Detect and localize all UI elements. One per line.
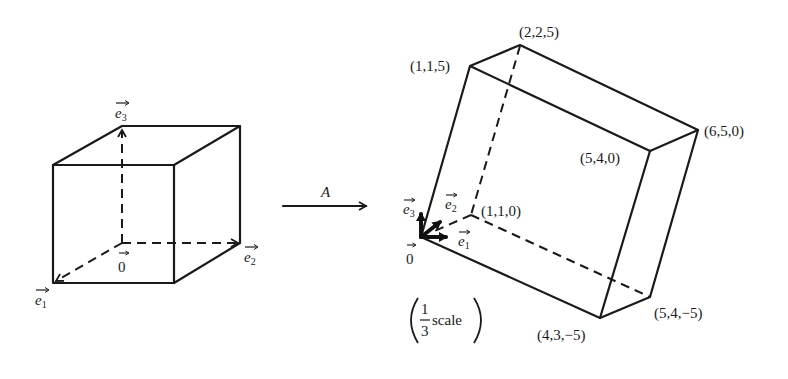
- left-e1-label: e1: [35, 288, 49, 311]
- prism-top-faces: [421, 45, 698, 237]
- svg-text:1: 1: [421, 301, 429, 317]
- svg-text:e3: e3: [403, 201, 415, 219]
- prism-bottom-edges: [421, 130, 698, 318]
- left-e3-label: e3: [115, 101, 129, 124]
- svg-text:0: 0: [406, 251, 414, 267]
- right-origin-label: 0: [406, 243, 416, 267]
- left-origin-label: 0: [118, 251, 129, 275]
- vertex-label-540: (5,4,0): [580, 150, 620, 167]
- right-e1-label: e1: [458, 230, 470, 251]
- e1-axis-dashed: [56, 243, 122, 281]
- svg-text:e3: e3: [115, 105, 127, 123]
- right-e3-label: e3: [403, 198, 415, 219]
- vertex-label-650: (6,5,0): [704, 123, 744, 140]
- linear-transform-diagram: e3 e2 e1 0 A: [0, 0, 788, 379]
- vertex-label-115: (1,1,5): [410, 58, 450, 75]
- vertex-label-54m5: (5,4,−5): [654, 305, 702, 322]
- svg-text:e1: e1: [35, 292, 47, 310]
- transformed-prism: (1,1,5) (2,2,5) (6,5,0) (5,4,0) (1,1,0) …: [403, 24, 744, 344]
- svg-text:e1: e1: [458, 233, 470, 251]
- scale-note: 1 3 scale: [411, 298, 481, 343]
- transform-arrow: A: [283, 184, 366, 206]
- hidden-edge-225-110: [471, 46, 520, 215]
- svg-text:e2: e2: [445, 196, 457, 214]
- left-e2-label: e2: [244, 245, 258, 268]
- svg-text:3: 3: [421, 323, 429, 339]
- transform-label: A: [320, 184, 331, 200]
- hidden-edge-110-54m5: [471, 215, 650, 297]
- cube-right-side: [174, 126, 240, 283]
- svg-text:scale: scale: [432, 312, 462, 328]
- cube-front-face: [53, 165, 174, 283]
- svg-text:e2: e2: [244, 249, 256, 267]
- vertex-label-110: (1,1,0): [481, 203, 521, 220]
- cube-top-face: [53, 126, 240, 165]
- vertex-label-225: (2,2,5): [519, 24, 559, 41]
- right-e2-label: e2: [445, 193, 457, 214]
- vertex-label-43m5: (4,3,−5): [537, 327, 585, 344]
- svg-text:0: 0: [118, 259, 126, 275]
- unit-cube: e3 e2 e1 0: [35, 101, 258, 311]
